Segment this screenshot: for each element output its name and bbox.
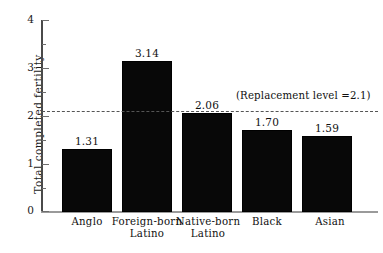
replacement-level-line: [42, 111, 378, 112]
replacement-level-label: (Replacement level =2.1): [236, 90, 371, 101]
category-label-native-born-latino: Native-born Latino: [169, 216, 247, 239]
category-label-black-line1: Black: [252, 216, 282, 227]
category-label-native-born-latino-line1: Native-born: [176, 216, 240, 227]
bar-anglo: [62, 149, 112, 212]
bar-native-born-latino: [182, 113, 232, 212]
plot-area: [42, 20, 378, 212]
bar-foreign-born-latino: [122, 61, 172, 212]
bar-value-native-born-latino: 2.06: [182, 99, 232, 111]
bar-chart-figure: Total completed fertility 4 3 2 1 0 1.31…: [0, 0, 383, 253]
y-tick-label-0: 0: [12, 205, 34, 215]
y-tick-label-3: 3: [12, 62, 34, 72]
category-label-native-born-latino-line2: Latino: [169, 228, 247, 240]
category-label-anglo-line1: Anglo: [71, 216, 102, 227]
bar-value-black: 1.70: [242, 116, 292, 128]
y-tick-label-2: 2: [12, 110, 34, 120]
category-label-asian: Asian: [300, 216, 360, 228]
category-label-black: Black: [237, 216, 297, 228]
bar-value-anglo: 1.31: [62, 135, 112, 147]
bar-value-foreign-born-latino: 3.14: [122, 47, 172, 59]
y-tick-label-4: 4: [12, 14, 34, 24]
bar-black: [242, 130, 292, 212]
category-label-asian-line1: Asian: [315, 216, 345, 227]
y-tick-label-1: 1: [12, 158, 34, 168]
bar-value-asian: 1.59: [302, 122, 352, 134]
bar-asian: [302, 136, 352, 212]
